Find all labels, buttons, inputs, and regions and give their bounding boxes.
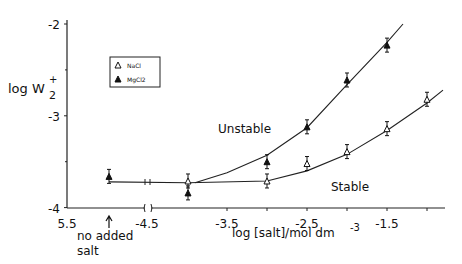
curve-nacl-fit [109,90,443,183]
curve-mgcl2-fit [195,24,403,183]
filled-triangle-marker [106,173,112,179]
data-point-mgcl2 [106,169,112,183]
chart: -2-3-45.5-4.5-3.5-2.5-1.5log W+2log [sal… [0,0,462,264]
y-tick-label: -4 [48,202,60,216]
filled-triangle-marker [185,190,191,196]
open-triangle-marker [304,161,310,167]
open-triangle-marker [424,96,430,102]
x-axis-break [144,204,152,212]
y-tick-label: -2 [48,18,60,32]
legend-label: NaCl [127,62,141,69]
y-axis-label: log W [8,81,45,96]
legend-label: MgCl2 [127,76,146,84]
open-triangle-marker [344,149,350,155]
data-point-nacl [344,145,350,159]
x-tick-label: -4.5 [135,217,158,231]
no-salt-label: no added [77,229,133,243]
data-point-mgcl2 [185,186,191,200]
x-tick-label: -1.5 [375,217,398,231]
open-triangle-marker [185,178,191,184]
x-tick-label: 5.5 [57,217,76,231]
y-tick-label: -3 [48,110,60,124]
filled-triangle-marker [264,159,270,165]
x-axis-label-sup: -3 [350,222,360,233]
data-point-mgcl2 [264,155,270,169]
no-salt-label: salt [77,244,99,258]
annotation-unstable: Unstable [218,122,271,136]
y-axis-label-sup: + [49,74,57,85]
no-salt-arrow [106,216,112,228]
y-axis-label-sub: 2 [49,89,56,102]
data-point-nacl [304,157,310,171]
annotation-stable: Stable [331,180,369,194]
x-axis-label: log [salt]/mol dm [232,226,335,240]
data-point-mgcl2 [344,73,350,87]
data-point-mgcl2 [304,120,310,134]
filled-triangle-marker [344,77,350,83]
